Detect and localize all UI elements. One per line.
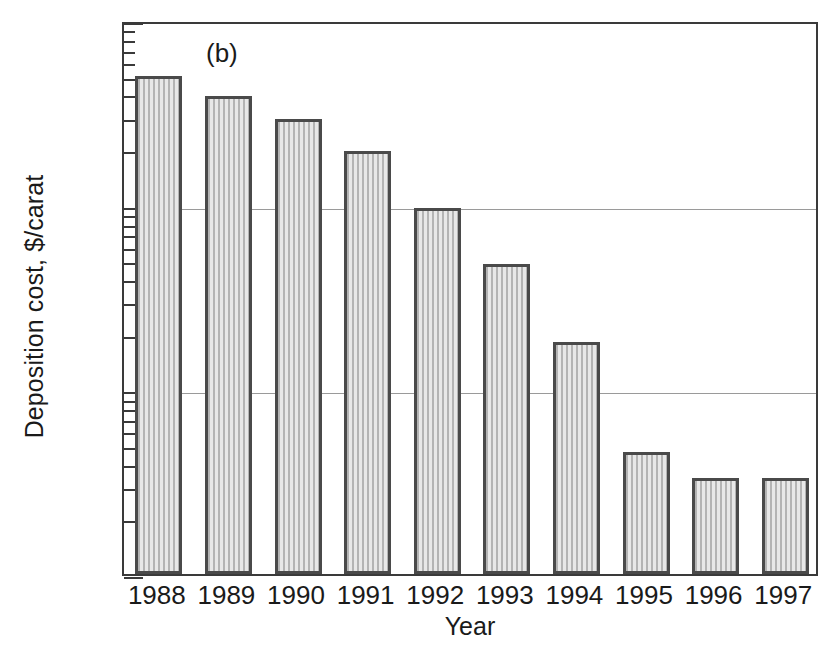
y-tick-minor <box>124 448 135 450</box>
bar <box>553 342 600 574</box>
bar <box>205 96 252 574</box>
bar <box>344 151 391 574</box>
y-tick-minor <box>124 337 135 339</box>
bar <box>414 208 461 574</box>
x-axis-title: Year <box>122 612 818 641</box>
y-tick-minor <box>124 41 135 43</box>
bar <box>135 76 182 574</box>
bar <box>483 264 530 574</box>
y-tick-minor <box>124 96 135 98</box>
y-tick-minor <box>124 152 135 154</box>
bar <box>623 452 670 574</box>
y-tick-minor <box>124 489 135 491</box>
y-tick-minor <box>124 79 135 81</box>
y-tick-minor <box>124 410 135 412</box>
y-tick-minor <box>124 281 135 283</box>
plot-area: (b) <box>122 22 818 576</box>
bar <box>762 478 809 574</box>
bar <box>275 119 322 574</box>
y-tick-major <box>124 23 143 25</box>
y-tick-minor <box>124 226 135 228</box>
y-tick-minor <box>124 466 135 468</box>
y-tick-minor <box>124 249 135 251</box>
y-tick-minor <box>124 401 135 403</box>
y-tick-minor <box>124 31 135 33</box>
chart-figure: Deposition cost, $/carat Year (b) 100010… <box>0 0 837 649</box>
y-tick-minor <box>124 236 135 238</box>
panel-label: (b) <box>206 38 238 69</box>
y-tick-minor <box>124 304 135 306</box>
y-tick-minor <box>124 421 135 423</box>
y-tick-major <box>124 577 143 579</box>
y-tick-minor <box>124 64 135 66</box>
y-tick-minor <box>124 52 135 54</box>
y-axis-title: Deposition cost, $/carat <box>20 77 49 537</box>
y-tick-minor <box>124 433 135 435</box>
y-tick-minor <box>124 120 135 122</box>
x-tick-label: 1997 <box>728 582 837 608</box>
y-tick-minor <box>124 216 135 218</box>
y-tick-minor <box>124 521 135 523</box>
y-tick-minor <box>124 263 135 265</box>
bar <box>692 478 739 574</box>
